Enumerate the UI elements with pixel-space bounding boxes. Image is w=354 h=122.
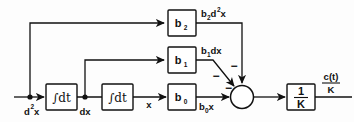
gain-b2-block[interactable]: b 2	[168, 10, 196, 36]
gain-b0-box[interactable]	[168, 84, 196, 110]
gain-b1-label: b	[175, 54, 182, 66]
b1-output-label-rest: dx	[211, 45, 223, 56]
b2-output-label: b 2 d 2 x	[201, 6, 227, 21]
summing-junction-circle[interactable]	[231, 86, 254, 109]
node-dot-d2x	[27, 94, 32, 99]
output-signal-label: c(t) K	[322, 71, 340, 95]
output-gain-denominator: K	[297, 98, 305, 110]
x-wire-label: x	[146, 99, 152, 110]
summing-junction[interactable]	[231, 86, 254, 109]
gain-b2-box[interactable]	[168, 10, 196, 36]
b0-output-label: b 0 x	[199, 101, 215, 114]
sign-diagonal-minus: −	[212, 69, 219, 83]
input-label-variable: x	[34, 106, 40, 117]
b2-output-label-rest: d	[211, 8, 217, 19]
block-diagram-svg: ∫dt ∫dt b 2 b 1 b 0 − − − 1 K c(t) K	[0, 0, 354, 122]
node-dot-dx	[82, 94, 87, 99]
integrator-2-label: ∫dt	[108, 91, 127, 105]
sign-top-minus: −	[230, 59, 237, 73]
gain-b2-label-subscript: 2	[184, 24, 188, 31]
b0-output-label-rest: x	[209, 101, 215, 112]
output-gain-numerator: 1	[298, 85, 304, 97]
integrator-2-block[interactable]: ∫dt	[102, 84, 133, 110]
gain-b1-block[interactable]: b 1	[168, 47, 196, 73]
b2-output-label-variable: x	[221, 8, 227, 19]
gain-b0-block[interactable]: b 0	[168, 84, 196, 110]
output-gain-block[interactable]: 1 K	[287, 84, 315, 110]
dx-node-label: dx	[79, 106, 91, 117]
integrator-1-label: ∫dt	[52, 91, 71, 105]
b1-output-label: b 1 dx	[201, 45, 222, 58]
output-signal-numerator: c(t)	[324, 71, 339, 82]
gain-b0-label: b	[175, 91, 182, 103]
output-signal-denominator: K	[328, 84, 335, 95]
input-label: d 2 x	[24, 103, 40, 117]
diagram-canvas: ∫dt ∫dt b 2 b 1 b 0 − − − 1 K c(t) K	[0, 0, 354, 122]
sign-left-minus: −	[225, 81, 232, 95]
gain-b2-label: b	[175, 17, 182, 29]
gain-b1-label-subscript: 1	[184, 61, 188, 68]
gain-b0-label-subscript: 0	[184, 98, 188, 105]
input-label-main: d	[24, 106, 30, 117]
integrator-1-block[interactable]: ∫dt	[46, 84, 77, 110]
gain-b1-box[interactable]	[168, 47, 196, 73]
